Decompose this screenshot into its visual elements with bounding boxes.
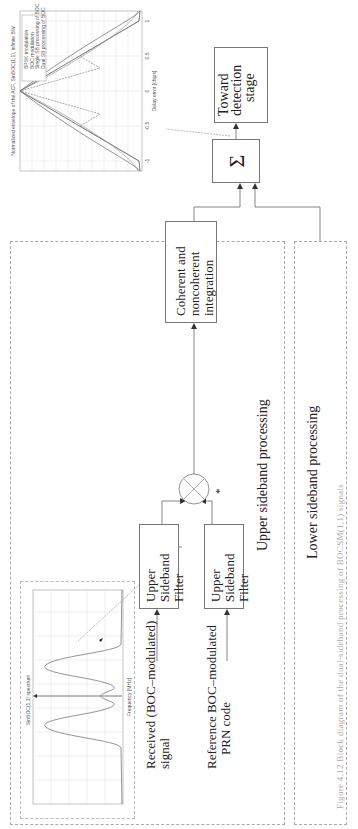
integration-line-2: noncoherent integration xyxy=(188,228,216,316)
summation-block: Σ xyxy=(212,139,260,183)
conjugate-marker: * xyxy=(212,489,226,495)
filter-2-line-2: Filter xyxy=(237,531,251,602)
svg-text:Normalized envelope of the ACF: Normalized envelope of the ACF, SinBOC(1… xyxy=(10,26,16,156)
svg-text:Delay error [chips]: Delay error [chips] xyxy=(151,70,157,111)
svg-text:Dual SB processing of BOC: Dual SB processing of BOC xyxy=(40,7,46,69)
coherent-noncoherent-integration-block: Coherent and noncoherent integration xyxy=(165,221,217,323)
svg-text:1: 1 xyxy=(144,19,150,22)
svg-text:-0.5: -0.5 xyxy=(144,121,150,130)
block-diagram: Frequency [MHz] SinBOC(1,1) spectrum xyxy=(0,0,358,829)
upper-sideband-label: Upper sideband processing xyxy=(256,399,270,551)
upper-sideband-filter-received: Upper Sideband Filter xyxy=(139,524,179,609)
acf-chart: BPSK modulation BOC modulation Single SB… xyxy=(4,4,159,189)
integration-line-1: Coherent and xyxy=(174,228,188,316)
reference-line-2: PRN code xyxy=(219,625,233,769)
lower-sideband-label: Lower sideband processing xyxy=(306,406,320,559)
received-signal-label: Received (BOC–modulated) signal xyxy=(144,621,172,769)
acf-plot: BPSK modulation BOC modulation Single SB… xyxy=(4,4,159,189)
filter-1-line-1: Upper Sideband xyxy=(144,531,172,602)
reference-code-label: Reference BOC–modulated PRN code xyxy=(205,625,233,769)
svg-text:0: 0 xyxy=(144,89,150,92)
received-line-2: signal xyxy=(158,621,172,769)
filter-2-line-1: Upper Sideband xyxy=(209,531,237,602)
figure-caption: Figure 4.12 Block diagram of the dual-si… xyxy=(335,484,345,809)
detection-stage-block: Toward detection stage xyxy=(214,47,268,123)
detection-line-3: stage xyxy=(243,54,256,116)
filter-1-line-2: Filter xyxy=(172,531,186,602)
upper-sideband-filter-reference: Upper Sideband Filter xyxy=(204,524,244,609)
sigma-icon: Σ xyxy=(227,155,246,168)
svg-text:-1: -1 xyxy=(144,159,150,164)
reference-line-1: Reference BOC–modulated xyxy=(205,625,219,769)
received-line-1: Received (BOC–modulated) xyxy=(144,621,158,769)
svg-text:0.5: 0.5 xyxy=(144,52,150,59)
